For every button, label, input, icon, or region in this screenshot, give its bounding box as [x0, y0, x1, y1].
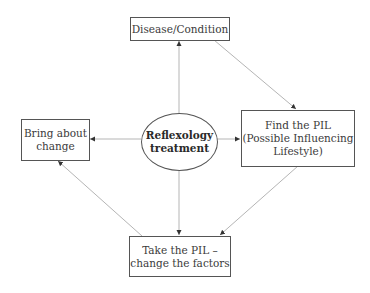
- node-label-line: Lifestyle): [273, 145, 323, 158]
- node-take-the-pil: Take the PIL – change the factors: [129, 236, 231, 277]
- node-disease-condition: Disease/Condition: [130, 17, 230, 41]
- node-label-line: treatment: [150, 142, 209, 155]
- edge-disease-to-find-pil: [214, 40, 296, 109]
- node-label-line: change: [36, 140, 75, 153]
- edge-find-pil-to-take-pil: [220, 166, 298, 235]
- node-label-line: Disease/Condition: [132, 23, 229, 36]
- node-reflexology-treatment: Reflexology treatment: [141, 113, 218, 171]
- node-label-line: (Possible Influencing: [242, 132, 353, 145]
- node-label-line: change the factors: [130, 257, 229, 270]
- node-find-the-pil: Find the PIL (Possible Influencing Lifes…: [241, 110, 355, 167]
- node-label-line: Take the PIL –: [142, 244, 218, 257]
- node-label-line: Bring about: [24, 127, 87, 140]
- node-bring-about-change: Bring about change: [21, 119, 90, 161]
- node-label-line: Reflexology: [146, 129, 213, 142]
- edge-take-pil-to-bring-change: [58, 161, 142, 236]
- node-label-line: Find the PIL: [265, 119, 331, 132]
